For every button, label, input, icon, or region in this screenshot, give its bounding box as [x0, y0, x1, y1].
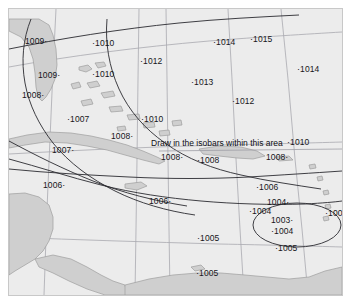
station-dot-icon: · [290, 215, 293, 225]
station-pressure-label: ·1007 [67, 115, 89, 124]
station-pressure-label: ·1015 [250, 35, 272, 44]
station-pressure-label: ·1008 [197, 156, 219, 165]
pressure-map-page: 1009··1010·1012·1014·10151009··1010·1013… [0, 0, 351, 303]
station-pressure-value: 1012 [143, 56, 162, 66]
station-pressure-value: 1013 [194, 77, 213, 87]
station-pressure-label: ·1010 [92, 70, 114, 79]
station-pressure-label: 1008· [161, 153, 183, 162]
station-pressure-label: ·1004 [271, 227, 293, 236]
station-pressure-value: 1015 [253, 34, 272, 44]
station-pressure-value: 1006 [43, 180, 62, 190]
station-dot-icon: · [62, 180, 65, 190]
station-pressure-label: 1003· [271, 216, 293, 225]
station-pressure-label: ·1005 [275, 244, 297, 253]
station-dot-icon: · [71, 145, 74, 155]
station-pressure-label: ·1010 [92, 39, 114, 48]
station-pressure-value: 1003 [271, 215, 290, 225]
station-dot-icon: · [180, 152, 183, 162]
station-pressure-value: 1008 [161, 152, 180, 162]
station-pressure-value: 1010 [290, 137, 309, 147]
station-pressure-value: 1008 [111, 131, 130, 141]
station-pressure-value: 1005 [200, 233, 219, 243]
station-pressure-label: ·1005 [196, 269, 218, 278]
station-pressure-value: 1010 [144, 114, 163, 124]
station-pressure-label: ·1012 [232, 97, 254, 106]
station-pressure-value: 1005 [199, 268, 218, 278]
station-pressure-label: ·1013 [191, 78, 213, 87]
station-pressure-value: 1014 [216, 37, 235, 47]
station-dot-icon: · [57, 70, 60, 80]
station-pressure-label: ·1010 [141, 115, 163, 124]
station-pressure-value: 1006 [259, 182, 278, 192]
station-pressure-label: ·1004 [249, 207, 271, 216]
station-pressure-value: 1010 [95, 38, 114, 48]
station-pressure-label: ·1005 [197, 234, 219, 243]
station-pressure-value: 1006 [149, 196, 168, 206]
station-pressure-value: 1007 [52, 145, 71, 155]
station-pressure-value: 1007 [70, 114, 89, 124]
station-pressure-label: ·1004 [325, 209, 343, 218]
station-pressure-label: 1009· [25, 37, 47, 46]
station-pressure-label: 1008· [22, 91, 44, 100]
station-pressure-value: 1014 [300, 64, 319, 74]
station-pressure-value: 1009 [38, 70, 57, 80]
station-pressure-label: 1008· [111, 132, 133, 141]
station-pressure-label: ·1006 [256, 183, 278, 192]
station-pressure-value: 1009 [25, 36, 44, 46]
station-pressure-value: 1004 [274, 226, 293, 236]
station-pressure-label: 1007· [52, 146, 74, 155]
station-pressure-label: ·1014 [297, 65, 319, 74]
station-pressure-value: 1004 [328, 208, 343, 218]
station-dot-icon: · [285, 152, 288, 162]
map-frame: 1009··1010·1012·1014·10151009··1010·1013… [8, 8, 343, 296]
station-pressure-value: 1008 [266, 152, 285, 162]
station-pressure-value: 1010 [95, 69, 114, 79]
station-dot-icon: · [130, 131, 133, 141]
station-pressure-label: 1006· [43, 181, 65, 190]
station-pressure-label: ·1014 [213, 38, 235, 47]
instruction-text: Draw in the isobars within this area [151, 139, 283, 148]
station-pressure-label: 1009· [38, 71, 60, 80]
station-dot-icon: · [41, 90, 44, 100]
station-pressure-value: 1008 [22, 90, 41, 100]
station-pressure-value: 1005 [278, 243, 297, 253]
station-dot-icon: · [168, 196, 171, 206]
station-dot-icon: · [44, 36, 47, 46]
station-pressure-value: 1012 [235, 96, 254, 106]
station-pressure-value: 1004 [252, 206, 271, 216]
station-pressure-label: ·1010 [287, 138, 309, 147]
station-dot-icon: · [286, 197, 289, 207]
station-pressure-label: 1008· [266, 153, 288, 162]
station-pressure-label: ·1012 [140, 57, 162, 66]
station-pressure-label: 1006· [149, 197, 171, 206]
station-pressure-value: 1008 [200, 155, 219, 165]
